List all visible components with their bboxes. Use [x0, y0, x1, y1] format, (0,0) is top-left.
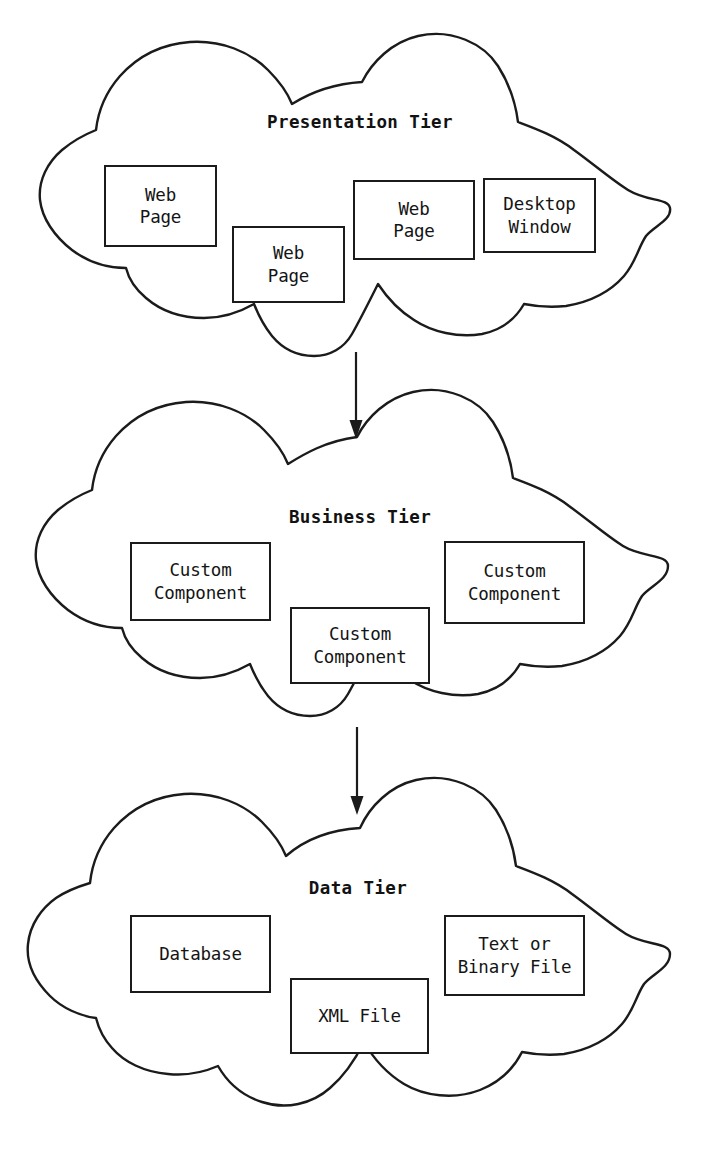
- arrow-head-icon: [351, 796, 364, 815]
- three-tier-diagram: Presentation Tier Business Tier Data Tie…: [0, 0, 704, 1160]
- tier-title-presentation: Presentation Tier: [267, 112, 453, 132]
- node-xml-file: XML File: [290, 978, 429, 1054]
- node-label: Desktop Window: [499, 193, 579, 238]
- node-label: Custom Component: [150, 559, 251, 604]
- node-web-page-1: Web Page: [104, 165, 217, 247]
- node-label: Custom Component: [309, 623, 410, 668]
- node-label: Web Page: [389, 198, 438, 243]
- node-custom-component-2: Custom Component: [290, 607, 430, 684]
- node-label: Web Page: [136, 184, 185, 229]
- node-label: Custom Component: [464, 560, 565, 605]
- node-label: Text or Binary File: [454, 933, 576, 978]
- node-text-binary-file: Text or Binary File: [444, 915, 585, 996]
- tier-title-data: Data Tier: [309, 878, 407, 898]
- node-web-page-3: Web Page: [353, 180, 475, 260]
- connector-presentation-to-business: [350, 352, 363, 439]
- node-database: Database: [130, 915, 271, 993]
- node-desktop-window: Desktop Window: [483, 178, 596, 253]
- node-custom-component-1: Custom Component: [130, 542, 271, 621]
- node-web-page-2: Web Page: [232, 226, 345, 303]
- node-label: Web Page: [264, 242, 313, 287]
- tier-title-business: Business Tier: [289, 507, 431, 527]
- node-label: XML File: [314, 1005, 405, 1027]
- connector-business-to-data: [351, 727, 364, 815]
- node-label: Database: [155, 943, 246, 965]
- node-custom-component-3: Custom Component: [444, 541, 585, 624]
